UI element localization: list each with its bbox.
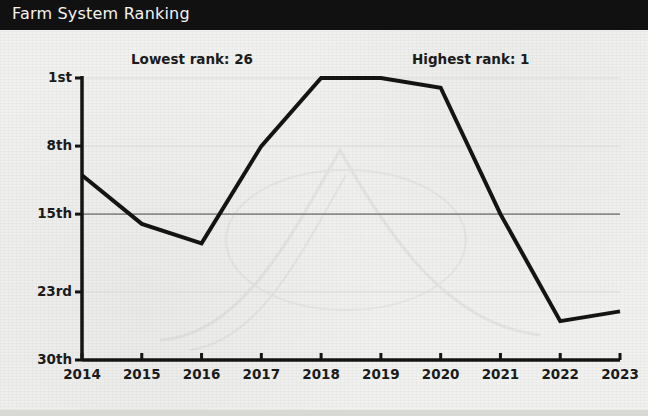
x-tick-label-2015: 2015 bbox=[116, 366, 168, 382]
x-tick-label-2021: 2021 bbox=[474, 366, 526, 382]
x-tick-label-2022: 2022 bbox=[534, 366, 586, 382]
x-tick-label-2017: 2017 bbox=[235, 366, 287, 382]
y-tick-label-1st: 1st bbox=[26, 69, 72, 85]
y-tick-label-30th: 30th bbox=[26, 351, 72, 367]
gridlines bbox=[82, 78, 620, 292]
x-tick-label-2023: 2023 bbox=[594, 366, 646, 382]
page-bottom-edge bbox=[0, 410, 648, 416]
x-tick-label-2014: 2014 bbox=[56, 366, 108, 382]
annotation-highest-rank: Highest rank: 1 bbox=[412, 51, 529, 67]
y-tick-label-23rd: 23rd bbox=[26, 283, 72, 299]
chart-plot-area bbox=[0, 0, 648, 416]
ranking-line-series bbox=[82, 78, 620, 321]
annotation-lowest-rank: Lowest rank: 26 bbox=[131, 51, 253, 67]
y-tick-label-15th: 15th bbox=[26, 205, 72, 221]
x-tick-label-2019: 2019 bbox=[355, 366, 407, 382]
chart-screenshot: Farm System Ranking 1st8th15th23rd30th 2… bbox=[0, 0, 648, 416]
x-tick-label-2018: 2018 bbox=[295, 366, 347, 382]
y-tick-label-8th: 8th bbox=[26, 137, 72, 153]
x-tick-label-2016: 2016 bbox=[176, 366, 228, 382]
x-tick-label-2020: 2020 bbox=[415, 366, 467, 382]
